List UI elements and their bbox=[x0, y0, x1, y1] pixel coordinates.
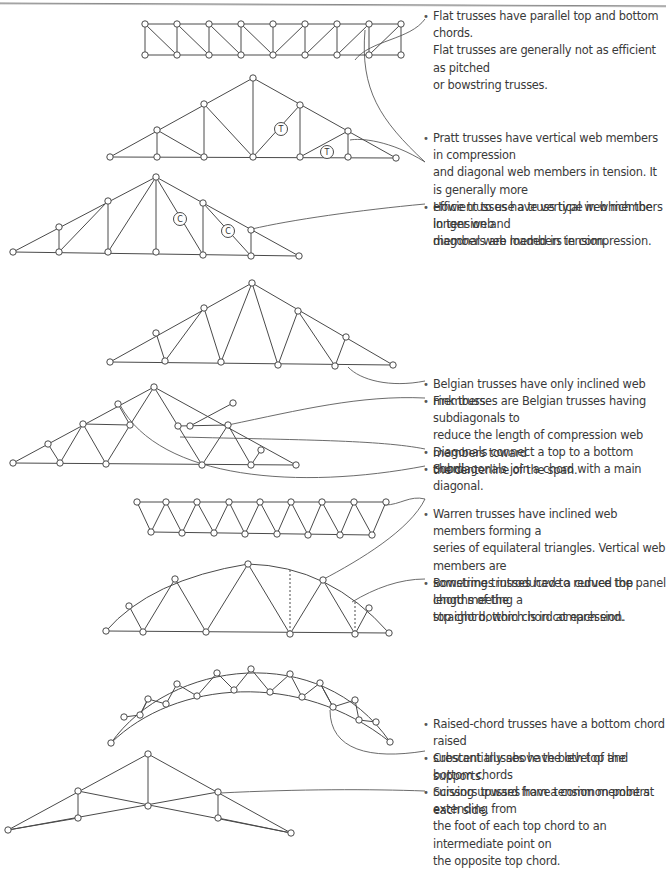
web-member bbox=[290, 580, 323, 634]
joint-node-icon bbox=[258, 447, 264, 453]
web-member bbox=[372, 502, 386, 535]
joint-node-icon bbox=[75, 815, 81, 821]
note-howe: •Howe trusses have vertical web members … bbox=[433, 199, 666, 251]
joint-node-icon bbox=[80, 421, 86, 427]
joint-node-icon bbox=[383, 499, 389, 505]
joint-node-icon bbox=[366, 21, 372, 27]
web-member bbox=[355, 608, 369, 634]
joint-node-icon bbox=[215, 815, 221, 821]
web-member bbox=[151, 502, 166, 532]
web-member bbox=[178, 426, 202, 465]
leader-line bbox=[364, 30, 425, 162]
joint-node-icon bbox=[162, 358, 168, 364]
joint-node-icon bbox=[225, 422, 231, 428]
joint-node-icon bbox=[238, 52, 244, 58]
joint-node-icon bbox=[115, 401, 121, 407]
joint-node-icon bbox=[242, 531, 248, 537]
web-member bbox=[320, 683, 333, 707]
web-member bbox=[154, 387, 178, 426]
web-member bbox=[137, 502, 151, 532]
web-member bbox=[270, 674, 290, 692]
web-member bbox=[241, 24, 273, 55]
web-member bbox=[83, 424, 130, 425]
bullet-icon: • bbox=[423, 750, 429, 767]
joint-node-icon bbox=[287, 631, 293, 637]
joint-node-icon bbox=[302, 52, 308, 58]
joint-node-icon bbox=[287, 671, 293, 677]
svg-text:C: C bbox=[177, 215, 183, 224]
web-member bbox=[209, 24, 241, 55]
joint-node-icon bbox=[334, 21, 340, 27]
web-member bbox=[197, 673, 217, 696]
joint-node-icon bbox=[257, 499, 263, 505]
joint-node-icon bbox=[175, 423, 181, 429]
web-member bbox=[165, 308, 204, 361]
web-member bbox=[369, 24, 401, 55]
joint-node-icon bbox=[200, 200, 206, 206]
joint-node-icon bbox=[288, 830, 294, 836]
joint-node-icon bbox=[174, 52, 180, 58]
web-member bbox=[273, 24, 305, 55]
note-bowstring: •Bowstring trusses have a curved top cho… bbox=[433, 575, 666, 627]
web-member bbox=[106, 425, 130, 464]
joint-node-icon bbox=[107, 359, 113, 365]
web-member bbox=[252, 283, 393, 365]
web-member bbox=[214, 502, 229, 533]
web-member bbox=[110, 362, 393, 365]
joint-node-icon bbox=[288, 499, 294, 505]
web-member bbox=[204, 104, 253, 157]
joint-node-icon bbox=[103, 628, 109, 634]
joint-node-icon bbox=[366, 605, 372, 611]
note-scissors: •Scissors trusses have tension members e… bbox=[433, 784, 666, 870]
leader-line bbox=[228, 398, 425, 425]
joint-node-icon bbox=[145, 751, 151, 757]
joint-node-icon bbox=[250, 75, 256, 81]
tension-marker-icon: T bbox=[275, 123, 288, 136]
web-member bbox=[322, 502, 340, 535]
joint-node-icon bbox=[127, 422, 133, 428]
joint-node-icon bbox=[398, 21, 404, 27]
joint-node-icon bbox=[319, 499, 325, 505]
joint-node-icon bbox=[140, 629, 146, 635]
joint-node-icon bbox=[148, 529, 154, 535]
web-member bbox=[106, 631, 389, 633]
joint-node-icon bbox=[107, 154, 113, 160]
web-member bbox=[197, 502, 214, 533]
compression-marker-icon: C bbox=[174, 213, 187, 226]
web-member bbox=[143, 579, 175, 632]
svg-text:C: C bbox=[225, 227, 231, 236]
web-member bbox=[156, 333, 165, 361]
web-member bbox=[228, 425, 251, 465]
svg-text:T: T bbox=[324, 148, 330, 157]
bullet-icon: • bbox=[423, 784, 429, 801]
web-member bbox=[175, 579, 206, 632]
web-member bbox=[166, 502, 182, 533]
joint-node-icon bbox=[201, 101, 207, 107]
scissors-truss bbox=[5, 751, 294, 836]
joint-node-icon bbox=[334, 52, 340, 58]
tension-marker-icon: T bbox=[321, 146, 334, 159]
joint-node-icon bbox=[267, 689, 273, 695]
web-member bbox=[83, 424, 106, 464]
web-member bbox=[182, 502, 197, 533]
joint-node-icon bbox=[270, 21, 276, 27]
web-member bbox=[305, 24, 337, 55]
joint-node-icon bbox=[337, 532, 343, 538]
joint-node-icon bbox=[345, 128, 351, 134]
bullet-icon: • bbox=[423, 376, 429, 393]
joint-node-icon bbox=[248, 227, 254, 233]
joint-node-icon bbox=[103, 461, 109, 467]
web-member bbox=[248, 564, 290, 634]
note-flat: •Flat trusses have parallel top and bott… bbox=[433, 8, 666, 94]
joint-node-icon bbox=[351, 499, 357, 505]
joint-node-icon bbox=[5, 827, 11, 833]
joint-node-icon bbox=[200, 252, 206, 258]
joint-node-icon bbox=[250, 154, 256, 160]
fink-truss bbox=[10, 384, 299, 468]
joint-node-icon bbox=[145, 696, 151, 702]
joint-node-icon bbox=[343, 334, 349, 340]
joint-node-icon bbox=[398, 52, 404, 58]
joint-node-icon bbox=[320, 577, 326, 583]
joint-node-icon bbox=[226, 499, 232, 505]
joint-node-icon bbox=[134, 499, 140, 505]
